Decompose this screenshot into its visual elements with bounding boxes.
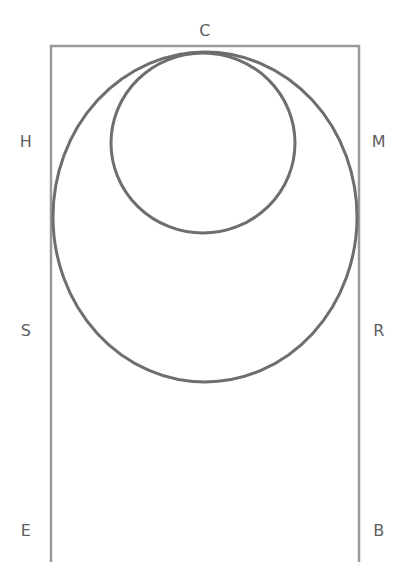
vertex-label-c: C (199, 23, 211, 39)
vertex-label-b: B (373, 523, 384, 539)
large-circle (53, 52, 357, 382)
vertex-label-s: S (21, 323, 32, 339)
vertex-label-e: E (21, 523, 32, 539)
diagram-canvas: C H M S R E B (0, 0, 411, 588)
vertex-label-r: R (373, 323, 385, 339)
vertex-label-m: M (372, 134, 386, 150)
geometry-figure (0, 0, 411, 588)
vertex-label-h: H (20, 134, 33, 150)
small-circle (111, 53, 295, 233)
